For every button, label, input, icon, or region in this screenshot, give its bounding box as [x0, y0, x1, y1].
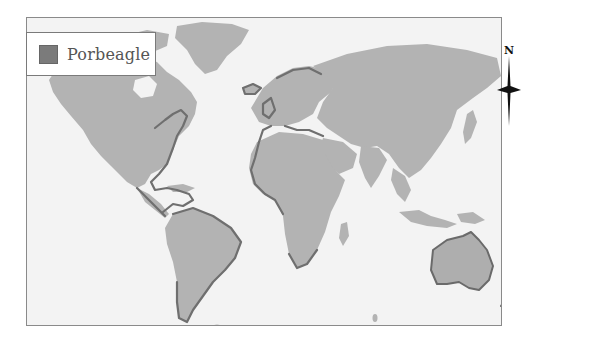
india — [359, 146, 387, 188]
japan — [463, 110, 477, 144]
map-legend: Porbeagle — [26, 32, 156, 76]
legend-label-porbeagle: Porbeagle — [67, 45, 150, 64]
range-new-zealand — [501, 282, 502, 308]
indonesia — [399, 210, 457, 228]
legend-swatch-porbeagle — [39, 45, 58, 64]
range-caribbean — [137, 188, 165, 216]
madagascar — [339, 222, 349, 246]
new-zealand — [501, 282, 502, 308]
range-australia — [431, 232, 493, 290]
greenland — [175, 22, 249, 74]
new-guinea — [457, 212, 485, 224]
north-arrow: N — [497, 44, 521, 124]
compass-star-icon — [497, 56, 521, 126]
